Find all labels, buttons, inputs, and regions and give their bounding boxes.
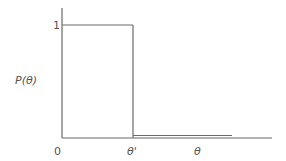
step-function-chart: 1 P(θ) 0 θ' θ	[0, 0, 286, 161]
x-threshold-label: θ'	[127, 145, 137, 158]
y-tick-label-one: 1	[53, 19, 60, 32]
x-origin-label: 0	[54, 145, 61, 158]
y-axis-label: P(θ)	[15, 74, 37, 87]
x-axis-label: θ	[194, 145, 201, 158]
